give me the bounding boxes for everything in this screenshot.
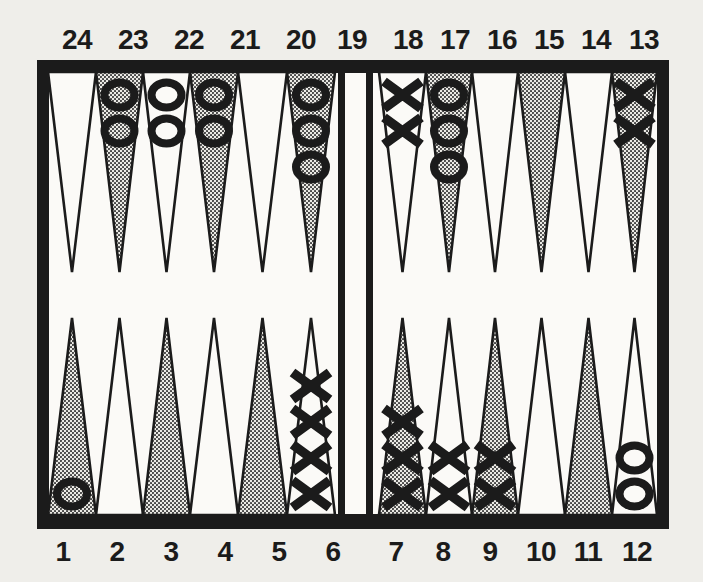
bottom-point-label-2: 2 [109, 536, 124, 567]
bottom-point-label-9: 9 [482, 536, 497, 567]
top-point-label-18: 18 [393, 24, 423, 55]
bottom-point-label-5: 5 [271, 536, 286, 567]
scanned-page: 242322212019181716151413123456789101112 [0, 0, 703, 582]
bottom-point-label-7: 7 [388, 536, 403, 567]
bottom-point-label-1: 1 [55, 536, 70, 567]
bottom-point-label-10: 10 [526, 536, 556, 567]
top-point-label-17: 17 [440, 24, 470, 55]
backgammon-board: 242322212019181716151413123456789101112 [0, 0, 703, 582]
board-frame-right [657, 60, 669, 529]
top-point-label-14: 14 [581, 24, 612, 55]
top-point-label-23: 23 [118, 24, 148, 55]
board-frame-left [37, 60, 49, 529]
board-frame-bottom [37, 514, 669, 529]
bottom-point-label-12: 12 [622, 536, 652, 567]
bottom-point-label-3: 3 [163, 536, 178, 567]
top-point-label-24: 24 [62, 24, 93, 55]
bar-right-line [366, 73, 373, 514]
top-point-label-16: 16 [487, 24, 517, 55]
top-point-label-19: 19 [337, 24, 367, 55]
board-frame-top [37, 60, 669, 73]
bottom-point-label-8: 8 [435, 536, 450, 567]
top-point-label-15: 15 [534, 24, 564, 55]
playing-field [49, 73, 657, 514]
bottom-point-label-6: 6 [325, 536, 340, 567]
top-point-label-13: 13 [629, 24, 659, 55]
top-point-label-20: 20 [286, 24, 316, 55]
bottom-point-label-4: 4 [217, 536, 233, 567]
top-point-label-21: 21 [230, 24, 260, 55]
bar-left-line [338, 73, 345, 514]
top-point-label-22: 22 [174, 24, 204, 55]
bottom-point-label-11: 11 [574, 536, 603, 567]
